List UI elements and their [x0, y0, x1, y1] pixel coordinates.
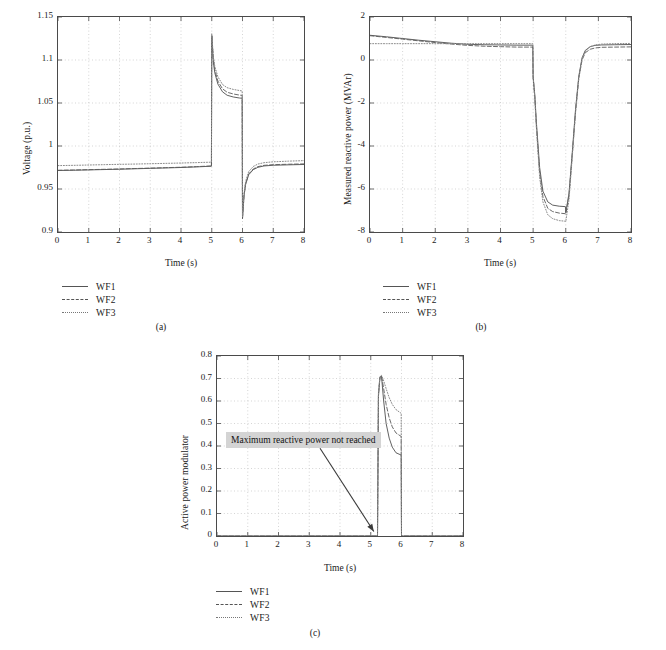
legend-swatch-solid-icon [62, 286, 88, 288]
x-tick-label: 6 [232, 235, 252, 245]
x-tick-label: 7 [421, 539, 441, 549]
x-tick-label: 5 [522, 235, 542, 245]
x-tick-label: 3 [139, 235, 159, 245]
axis-label-x-c: Time (s) [290, 563, 390, 573]
y-tick-label: 1.05 [23, 96, 53, 106]
caption-b: (b) [461, 322, 501, 332]
y-tick-label: 1 [23, 139, 53, 149]
subplot-a: Voltage (p.u.) Time (s) WF1WF2WF3 (a) 01… [0, 0, 333, 345]
legend-label: WF2 [96, 295, 116, 305]
legend-entry: WF3 [62, 306, 116, 319]
y-tick-label: 2 [335, 10, 365, 20]
legend-swatch-dotted-icon [383, 312, 409, 314]
series-line-WF3 [217, 375, 463, 536]
plot-area-a [57, 16, 305, 233]
figure-container: Voltage (p.u.) Time (s) WF1WF2WF3 (a) 01… [0, 0, 666, 650]
x-tick-label: 3 [298, 539, 318, 549]
y-tick-label: 0.95 [23, 182, 53, 192]
legend-entry: WF2 [216, 598, 270, 611]
x-tick-label: 8 [620, 235, 640, 245]
x-tick-label: 8 [293, 235, 313, 245]
x-tick-label: 0 [359, 235, 379, 245]
legend-b: WF1WF2WF3 [383, 280, 437, 319]
legend-swatch-dotted-icon [216, 617, 242, 619]
caption-c: (c) [295, 628, 335, 638]
x-tick-label: 6 [391, 539, 411, 549]
legend-label: WF3 [417, 308, 437, 318]
y-tick-label: 0.2 [182, 484, 212, 494]
y-tick-label: 0.3 [182, 462, 212, 472]
y-tick-label: -2 [335, 96, 365, 106]
y-tick-label: -6 [335, 182, 365, 192]
x-tick-label: 8 [452, 539, 472, 549]
annotation-label: Maximum reactive power not reached [226, 432, 381, 448]
y-tick-label: 0 [182, 529, 212, 539]
legend-swatch-solid-icon [216, 591, 242, 593]
legend-entry: WF1 [216, 585, 270, 598]
series-line-WF2 [217, 376, 463, 536]
annotation-arrow-icon [320, 448, 374, 531]
x-tick-label: 0 [206, 539, 226, 549]
axis-label-x-a: Time (s) [131, 258, 231, 268]
plot-svg-a [58, 17, 304, 232]
x-tick-label: 2 [109, 235, 129, 245]
legend-label: WF1 [96, 282, 116, 292]
legend-swatch-dashed-icon [216, 604, 242, 606]
y-tick-label: 0.5 [182, 417, 212, 427]
x-tick-label: 3 [457, 235, 477, 245]
x-tick-label: 4 [170, 235, 190, 245]
x-tick-label: 2 [268, 539, 288, 549]
x-tick-label: 7 [587, 235, 607, 245]
series-line-WF3 [370, 43, 631, 221]
x-tick-label: 5 [201, 235, 221, 245]
x-tick-label: 1 [78, 235, 98, 245]
legend-c: WF1WF2WF3 [216, 585, 270, 624]
legend-label: WF1 [417, 282, 437, 292]
legend-a: WF1WF2WF3 [62, 280, 116, 319]
x-tick-label: 0 [47, 235, 67, 245]
y-tick-label: 0.8 [182, 349, 212, 359]
y-tick-label: -8 [335, 225, 365, 235]
legend-entry: WF2 [62, 293, 116, 306]
x-tick-label: 7 [262, 235, 282, 245]
y-tick-label: 1.15 [23, 10, 53, 20]
x-tick-label: 4 [490, 235, 510, 245]
x-tick-label: 6 [555, 235, 575, 245]
legend-label: WF1 [250, 587, 270, 597]
y-tick-label: 0.6 [182, 394, 212, 404]
y-tick-label: 0.9 [23, 225, 53, 235]
caption-a: (a) [141, 322, 181, 332]
legend-entry: WF2 [383, 293, 437, 306]
plot-area-b [369, 16, 632, 233]
x-tick-label: 5 [360, 539, 380, 549]
x-tick-label: 4 [329, 539, 349, 549]
legend-entry: WF1 [62, 280, 116, 293]
legend-label: WF2 [250, 600, 270, 610]
legend-label: WF3 [96, 308, 116, 318]
legend-label: WF2 [417, 295, 437, 305]
x-tick-label: 2 [424, 235, 444, 245]
y-tick-label: 0.7 [182, 372, 212, 382]
legend-label: WF3 [250, 613, 270, 623]
legend-swatch-dashed-icon [383, 299, 409, 301]
y-tick-label: 1.1 [23, 53, 53, 63]
legend-entry: WF1 [383, 280, 437, 293]
y-tick-label: 0 [335, 53, 365, 63]
x-tick-label: 1 [237, 539, 257, 549]
y-tick-label: 0.1 [182, 507, 212, 517]
legend-entry: WF3 [216, 611, 270, 624]
y-tick-label: -4 [335, 139, 365, 149]
plot-svg-b [370, 17, 631, 232]
x-tick-label: 1 [392, 235, 412, 245]
legend-swatch-solid-icon [383, 286, 409, 288]
legend-swatch-dotted-icon [62, 312, 88, 314]
y-tick-label: 0.4 [182, 439, 212, 449]
subplot-b: Measured reactive power (MVAr) Time (s) … [333, 0, 666, 345]
legend-swatch-dashed-icon [62, 299, 88, 301]
axis-label-x-b: Time (s) [450, 258, 550, 268]
legend-entry: WF3 [383, 306, 437, 319]
subplot-c: Active power modulator Maximum reactive … [166, 345, 499, 650]
